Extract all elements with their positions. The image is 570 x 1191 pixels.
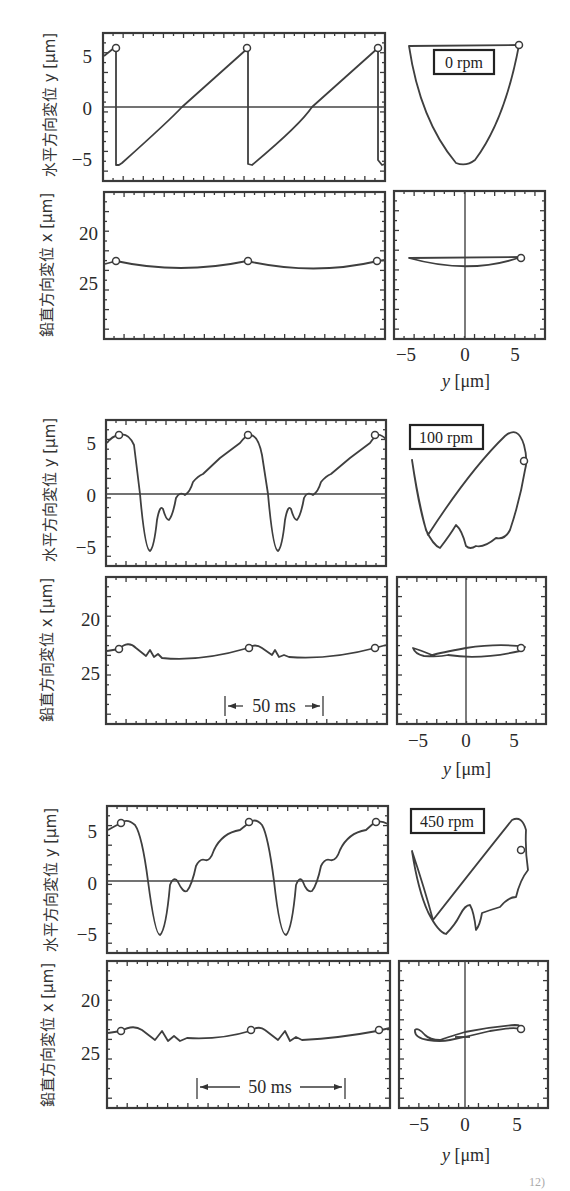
group-450rpm: 水平方向変位 y [μm] 5 0 −5 450 rpm 鉛直方向変位 x [μ… [39,806,548,1165]
ylabel-horizontal-displacement: 水平方向変位 y [μm] [42,808,60,952]
svg-text:0: 0 [83,98,93,119]
svg-text:−5: −5 [76,537,96,558]
marker [116,646,123,653]
svg-text:50 ms: 50 ms [248,1077,292,1097]
marker [246,819,253,826]
marker [518,255,525,262]
rpm-label: 450 rpm [420,813,474,831]
ytick-labels: 20 25 [81,609,100,684]
svg-text:鉛直方向変位 x [μm]: 鉛直方向変位 x [μm] [39,963,57,1107]
marker [113,45,120,52]
svg-text:0: 0 [460,1114,470,1135]
vibration-figure: 水平方向変位 y [μm] 5 0 −5 0 rpm 鉛直方向変位 x [μm]… [0,0,570,1191]
frame-ticks [106,420,386,566]
svg-text:5: 5 [83,46,93,67]
rpm-label: 0 rpm [445,54,483,72]
orbit-vertical-100rpm [413,645,525,657]
svg-text:鉛直方向変位 x [μm]: 鉛直方向変位 x [μm] [38,578,56,722]
marker [518,645,525,652]
svg-text:5: 5 [87,433,97,454]
marker [246,645,253,652]
marker [521,458,528,465]
group-0rpm: 水平方向変位 y [μm] 5 0 −5 0 rpm 鉛直方向変位 x [μm]… [38,33,545,391]
svg-text:−5: −5 [396,344,416,365]
svg-text:5: 5 [510,344,520,365]
svg-text:−5: −5 [77,924,97,945]
marker [518,847,525,854]
marker [113,258,120,265]
ytick-labels: 5 0 −5 [77,821,97,945]
svg-text:水平方向変位 y [μm]: 水平方向変位 y [μm] [42,808,60,952]
series-horizontal-100rpm [107,434,386,551]
rpm-label: 100 rpm [419,429,473,447]
orbit-xlabel: y [μm] [440,1145,490,1165]
ytick-labels: 5 0 −5 [76,433,96,558]
svg-text:−5: −5 [408,730,428,751]
marker [376,1027,383,1034]
marker [375,45,382,52]
ylabel-vertical-displacement: 鉛直方向変位 x [μm] [38,578,56,722]
series-horizontal-450rpm [108,821,388,935]
svg-text:20: 20 [79,223,98,244]
ylabel-vertical-displacement: 鉛直方向変位 x [μm] [39,963,57,1107]
caption-fragment: 12) [529,1175,545,1189]
frame-ticks [107,806,388,953]
svg-text:0: 0 [460,344,470,365]
svg-text:25: 25 [79,273,98,294]
marker [372,645,379,652]
marker [373,819,380,826]
marker [372,432,379,439]
figure-canvas: 水平方向変位 y [μm] 5 0 −5 0 rpm 鉛直方向変位 x [μm]… [0,0,570,1191]
orbit-horizontal-450rpm [412,819,528,934]
xtick-labels: −5 0 5 [396,344,520,365]
svg-text:25: 25 [81,1043,100,1064]
marker [516,42,523,49]
marker [118,1028,125,1035]
svg-text:0: 0 [87,485,97,506]
time-scale-annotation: 50 ms [225,696,323,716]
ytick-labels: 20 25 [79,223,98,294]
marker [245,432,252,439]
svg-text:−5: −5 [72,149,92,170]
time-scale-annotation: 50 ms [197,1077,345,1099]
xtick-labels: −5 0 5 [408,730,519,751]
group-100rpm: 水平方向変位 y [μm] 5 0 −5 100 rpm 鉛直方向変位 x [μ… [38,418,546,779]
svg-text:50 ms: 50 ms [252,696,296,716]
svg-text:20: 20 [81,990,100,1011]
svg-text:鉛直方向変位 x [μm]: 鉛直方向変位 x [μm] [38,193,56,337]
svg-text:5: 5 [509,730,519,751]
svg-text:0: 0 [88,873,98,894]
xtick-labels: −5 0 5 [409,1114,522,1135]
ytick-labels: 20 25 [81,990,100,1064]
svg-text:20: 20 [81,609,100,630]
marker [248,1027,255,1034]
marker [245,258,252,265]
svg-text:0: 0 [461,730,471,751]
svg-text:水平方向変位 y [μm]: 水平方向変位 y [μm] [41,418,59,562]
svg-text:−5: −5 [409,1114,429,1135]
ylabel-horizontal-displacement: 水平方向変位 y [μm] [41,418,59,562]
marker [116,432,123,439]
ytick-labels: 5 0 −5 [72,46,92,170]
plot-frame-horizontal-time [106,420,386,566]
orbit-vertical-450rpm [415,1025,522,1041]
ylabel-vertical-displacement: 鉛直方向変位 x [μm] [38,193,56,337]
orbit-xlabel: y [μm] [441,759,491,779]
marker [244,45,251,52]
svg-text:25: 25 [81,663,100,684]
svg-text:5: 5 [88,821,98,842]
marker [118,820,125,827]
plot-frame-horizontal-time [107,806,388,953]
orbit-xlabel: y [μm] [440,371,490,391]
frame-ticks [394,191,545,339]
ylabel-horizontal-displacement: 水平方向変位 y [μm] [41,33,59,177]
marker [518,1026,525,1033]
svg-text:5: 5 [512,1114,522,1135]
plot-frame-orbit [394,191,545,339]
marker [374,258,381,265]
svg-text:水平方向変位 y [μm]: 水平方向変位 y [μm] [41,33,59,177]
